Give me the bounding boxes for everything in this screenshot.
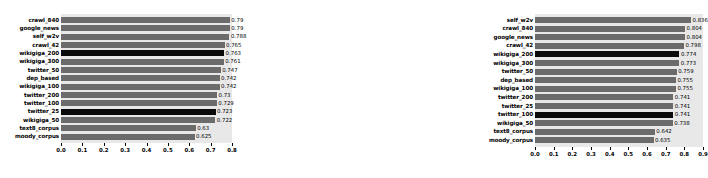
bar [535,86,676,92]
x-tick-mark [82,143,83,146]
bar [535,120,673,126]
value-label: 0.755 [677,77,692,83]
x-tick-mark [189,143,190,146]
x-tick-mark [535,147,536,150]
bar [535,103,673,109]
x-tick-label: 0.8 [227,147,237,154]
x-tick-mark [554,147,555,150]
bar [535,69,677,75]
bar-row [535,60,703,66]
bar-row [535,129,703,135]
bar [535,60,679,66]
bar [535,34,685,40]
value-label: 0.798 [685,42,700,48]
x-tick-label: 0.3 [586,151,596,158]
x-tick-mark [125,143,126,146]
x-tick-mark [684,147,685,150]
x-tick-label: 0.8 [680,151,690,158]
bar [535,17,691,23]
value-label: 0.741 [675,111,690,117]
value-label: 0.774 [681,51,696,57]
x-tick-label: 0.5 [163,147,173,154]
bar [535,129,655,135]
value-label: 0.804 [687,25,702,31]
bar-row [535,17,703,23]
x-tick-label: 0.7 [661,151,671,158]
x-tick-mark [628,147,629,150]
bar [535,137,654,143]
bar [535,51,679,57]
x-tick-mark [591,147,592,150]
bar-row [535,26,703,32]
x-tick-label: 0.7 [206,147,216,154]
x-tick-label: 0.3 [120,147,130,154]
x-tick-label: 0.9 [698,151,708,158]
x-tick-label: 0.6 [642,151,652,158]
x-tick-label: 0.5 [624,151,634,158]
bar-row [535,34,703,40]
x-tick-mark [211,143,212,146]
chart-panel-left: crawl_8400.79google_news0.79self_w2v0.78… [0,0,237,178]
bar-row [535,43,703,49]
value-label: 0.759 [678,68,693,74]
x-tick-label: 0.0 [530,151,540,158]
x-tick-label: 0.1 [78,147,88,154]
x-tick-mark [168,143,169,146]
bar [535,77,676,83]
value-label: 0.773 [681,60,696,66]
x-tick-mark [61,143,62,146]
x-tick-mark [147,143,148,146]
x-tick-mark [703,147,704,150]
x-tick-mark [647,147,648,150]
x-tick-mark [572,147,573,150]
x-tick-label: 0.6 [184,147,194,154]
value-label: 0.738 [674,120,689,126]
value-label: 0.836 [693,17,708,23]
bar [535,94,673,100]
x-tick-mark [232,143,233,146]
x-tick-label: 0.4 [605,151,615,158]
bar [535,43,684,49]
value-label: 0.635 [655,137,670,143]
x-tick-mark [610,147,611,150]
bar-row [535,137,703,143]
bar [535,112,673,118]
x-axis-right: 0.00.10.20.30.40.50.60.70.80.9 [237,0,474,178]
x-tick-label: 0.4 [142,147,152,154]
bar-row [535,51,703,57]
x-tick-label: 0.0 [56,147,66,154]
value-label: 0.755 [677,85,692,91]
x-axis-left: 0.00.10.20.30.40.50.60.70.8 [0,0,237,178]
bar [535,26,685,32]
x-tick-label: 0.1 [549,151,559,158]
value-label: 0.741 [675,103,690,109]
value-label: 0.741 [675,94,690,100]
value-label: 0.642 [656,128,671,134]
x-tick-mark [666,147,667,150]
x-tick-label: 0.2 [99,147,109,154]
chart-panel-right: self_w2v0.836crawl_8400.804google_news0.… [237,0,474,178]
x-tick-label: 0.2 [568,151,578,158]
value-label: 0.804 [687,34,702,40]
x-tick-mark [104,143,105,146]
